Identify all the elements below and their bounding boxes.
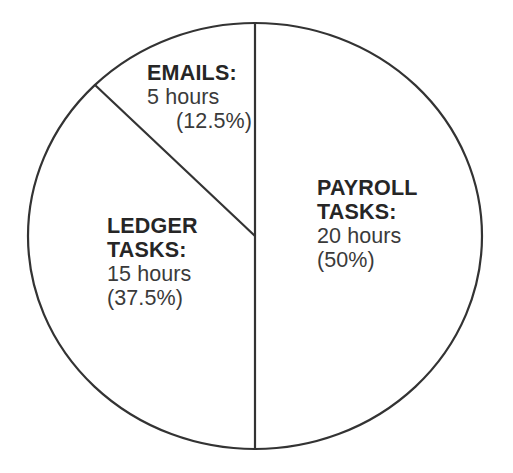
slice-percent-emails: (12.5%) <box>147 110 254 134</box>
slice-label-emails: EMAILS: 5 hours (12.5%) <box>147 62 254 134</box>
slice-name-payroll-line1: PAYROLL <box>317 177 418 201</box>
slice-name-emails: EMAILS: <box>147 62 254 86</box>
slice-hours-emails: 5 hours <box>147 86 254 110</box>
slice-label-ledger-tasks: LEDGER TASKS: 15 hours (37.5%) <box>107 215 198 311</box>
slice-percent-ledger: (37.5%) <box>107 287 198 311</box>
slice-label-payroll-tasks: PAYROLL TASKS: 20 hours (50%) <box>317 177 418 273</box>
slice-hours-ledger: 15 hours <box>107 263 198 287</box>
pie-chart-graphic <box>0 0 513 473</box>
slice-percent-payroll: (50%) <box>317 249 418 273</box>
pie-chart: EMAILS: 5 hours (12.5%) LEDGER TASKS: 15… <box>0 0 513 473</box>
slice-name-payroll-line2: TASKS: <box>317 201 418 225</box>
slice-name-ledger-line2: TASKS: <box>107 239 198 263</box>
slice-hours-payroll: 20 hours <box>317 225 418 249</box>
slice-name-ledger-line1: LEDGER <box>107 215 198 239</box>
